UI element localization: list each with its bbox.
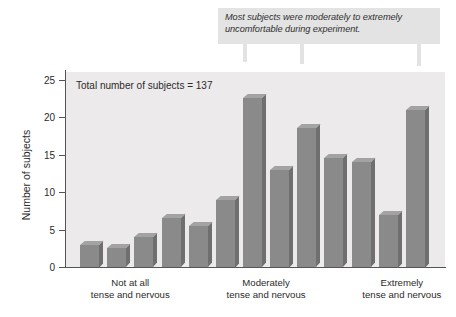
bar-top-face: [216, 196, 240, 200]
bar-chart-figure: Most subjects were moderately to extreme…: [0, 0, 456, 317]
bar-front-face: [297, 128, 316, 267]
x-category-label-line1: Not at all: [75, 277, 185, 289]
bar-9: [297, 128, 316, 267]
y-tick-0: [59, 267, 65, 268]
bar-front-face: [324, 158, 343, 267]
bar-13: [406, 110, 425, 268]
bar-series: [66, 72, 445, 267]
bar-side-face: [316, 124, 320, 267]
bar-4: [162, 218, 181, 267]
bar-top-face: [80, 241, 104, 245]
bar-5: [189, 226, 208, 267]
bar-front-face: [270, 170, 289, 268]
bar-front-face: [80, 245, 99, 268]
bar-front-face: [352, 162, 371, 267]
bar-3: [134, 237, 153, 267]
bar-12: [379, 215, 398, 268]
total-subjects-note: Total number of subjects = 137: [76, 80, 212, 91]
x-category-label-line2: tense and nervous: [75, 289, 185, 301]
x-category-label-line2: tense and nervous: [211, 289, 321, 301]
x-category-label-line1: Extremely: [347, 277, 456, 289]
y-tick-5: [59, 230, 65, 231]
bar-top-face: [406, 106, 430, 110]
bar-2: [107, 248, 126, 267]
y-tick-25: [59, 80, 65, 81]
bar-top-face: [189, 222, 213, 226]
x-axis-line: [65, 267, 446, 268]
bar-side-face: [371, 158, 375, 267]
callout-stem-1: [243, 44, 247, 62]
x-category-label-line2: tense and nervous: [347, 289, 456, 301]
bar-7: [243, 98, 262, 267]
callout-annotation: Most subjects were moderately to extreme…: [218, 8, 440, 44]
callout-stem-3: [417, 44, 421, 66]
bar-side-face: [208, 221, 212, 267]
bar-8: [270, 170, 289, 268]
bar-top-face: [379, 211, 403, 215]
y-tick-10: [59, 192, 65, 193]
bar-1: [80, 245, 99, 268]
bar-10: [324, 158, 343, 267]
bar-front-face: [134, 237, 153, 267]
x-category-label-1: Not at alltense and nervous: [75, 277, 185, 301]
bar-side-face: [153, 233, 157, 267]
bar-side-face: [343, 154, 347, 267]
bar-side-face: [289, 165, 293, 267]
x-category-label-line1: Moderately: [211, 277, 321, 289]
bar-front-face: [406, 110, 425, 268]
bar-front-face: [107, 248, 126, 267]
bar-front-face: [189, 226, 208, 267]
y-tick-20: [59, 117, 65, 118]
bar-front-face: [243, 98, 262, 267]
x-category-label-2: Moderatelytense and nervous: [211, 277, 321, 301]
bar-side-face: [235, 195, 239, 267]
y-tick-label-25: 25: [25, 74, 55, 85]
y-tick-label-0: 0: [25, 262, 55, 273]
bar-6: [216, 200, 235, 268]
bar-side-face: [398, 210, 402, 267]
y-tick-15: [59, 155, 65, 156]
bar-front-face: [379, 215, 398, 268]
y-axis-title: Number of subjects: [20, 100, 32, 250]
callout-stem-2: [300, 44, 304, 64]
bar-side-face: [425, 105, 429, 267]
bar-front-face: [216, 200, 235, 268]
bar-11: [352, 162, 371, 267]
bar-side-face: [181, 214, 185, 267]
x-category-label-3: Extremelytense and nervous: [347, 277, 456, 301]
bar-side-face: [262, 94, 266, 267]
bar-front-face: [162, 218, 181, 267]
